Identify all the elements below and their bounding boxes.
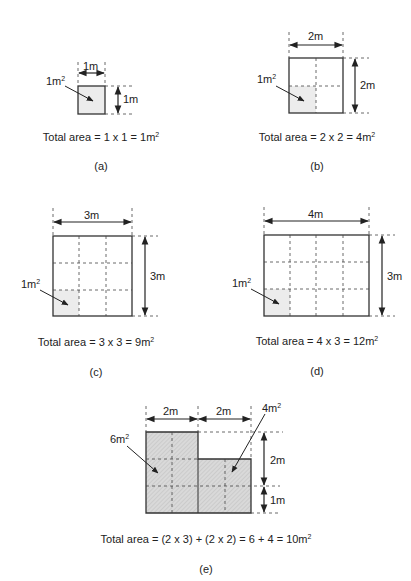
- height-label-c: 3m: [150, 270, 165, 282]
- panel-label-c: (c): [90, 366, 103, 378]
- figure-a: [65, 62, 132, 114]
- figure-d: [251, 207, 395, 316]
- width-label-c: 3m: [84, 209, 99, 221]
- total-area-formula-e: Total area = (2 x 3) + (2 x 2) = 6 + 4 =…: [101, 533, 312, 545]
- total-area-formula-c: Total area = 3 x 3 = 9m2: [38, 336, 154, 348]
- unit-area-label-b: 1m2: [257, 73, 276, 85]
- left-width-label-e: 2m: [163, 405, 178, 417]
- panel-label-b: (b): [310, 160, 323, 172]
- height-label-b: 2m: [360, 79, 375, 91]
- right-area-label-e: 4m2: [262, 402, 281, 414]
- width-label-d: 4m: [308, 208, 323, 220]
- total-area-formula-b: Total area = 2 x 2 = 4m2: [259, 131, 375, 143]
- unit-area-label-d: 1m2: [232, 277, 251, 289]
- figure-e: [127, 406, 283, 513]
- panel-label-d: (d): [310, 365, 323, 377]
- right-width-label-e: 2m: [216, 405, 231, 417]
- total-area-formula-a: Total area = 1 x 1 = 1m2: [43, 131, 159, 143]
- width-label-a: 1m: [83, 60, 98, 72]
- unit-square: [53, 290, 79, 316]
- upper-height-label-e: 2m: [270, 454, 285, 466]
- height-label-a: 1m: [123, 93, 138, 105]
- unit-area-label-c: 1m2: [21, 278, 40, 290]
- unit-square: [289, 86, 316, 113]
- figure-b: [276, 32, 369, 113]
- width-label-b: 2m: [308, 30, 323, 42]
- unit-area-label-a: 1m2: [46, 75, 65, 87]
- height-label-d: 3m: [387, 270, 402, 282]
- panel-label-e: (e): [199, 563, 212, 575]
- panel-label-a: (a): [94, 160, 107, 172]
- figure-c: [40, 208, 158, 316]
- left-area-label-e: 6m2: [110, 433, 129, 445]
- lower-height-label-e: 1m: [270, 494, 285, 506]
- total-area-formula-d: Total area = 4 x 3 = 12m2: [256, 335, 379, 347]
- area-diagram-canvas: [0, 0, 411, 581]
